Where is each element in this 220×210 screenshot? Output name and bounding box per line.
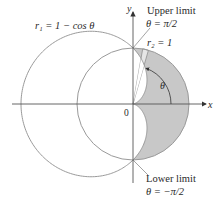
- lower-limit-value: θ = −π/2: [146, 186, 185, 197]
- lower-limit-title: Lower limit: [146, 173, 196, 184]
- origin-label: 0: [124, 108, 129, 118]
- x-axis-label: x: [207, 99, 213, 110]
- r2-label: r₂ = 1: [147, 37, 172, 48]
- upper-limit-title: Upper limit: [147, 5, 196, 16]
- y-axis-label: y: [126, 3, 132, 14]
- polar-area-diagram: r₁ = 1 − cos θ Upper limit θ = π/2 r₂ = …: [0, 0, 220, 210]
- r1-label: r₁ = 1 − cos θ: [35, 20, 94, 31]
- upper-limit-value: θ = π/2: [146, 18, 178, 29]
- theta-label: θ: [160, 80, 165, 91]
- diagram-canvas: r₁ = 1 − cos θ Upper limit θ = π/2 r₂ = …: [0, 0, 220, 210]
